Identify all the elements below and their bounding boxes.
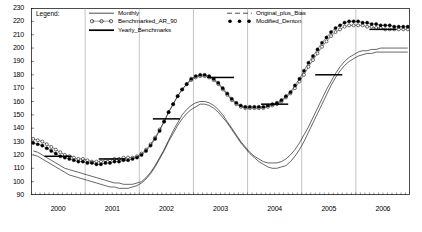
marker-benchmarked-ar90 <box>41 140 44 143</box>
marker-modified-denton <box>203 73 206 76</box>
marker-modified-denton <box>77 160 80 163</box>
chart-figure: 9010011012013014015016017018019020021022… <box>0 0 422 232</box>
marker-modified-denton <box>375 22 378 25</box>
marker-benchmarked-ar90 <box>45 143 48 146</box>
marker-modified-denton <box>298 77 301 80</box>
y-tick-label: 230 <box>2 4 24 11</box>
x-tick-label: 2000 <box>35 205 81 212</box>
marker-modified-denton <box>113 160 116 163</box>
marker-benchmarked-ar90 <box>36 139 39 142</box>
marker-modified-denton <box>248 105 251 108</box>
marker-modified-denton <box>90 161 93 164</box>
marker-benchmarked-ar90 <box>302 73 305 76</box>
legend-label: Monthly <box>118 9 139 17</box>
marker-modified-denton <box>235 101 238 104</box>
marker-modified-denton <box>104 161 107 164</box>
marker-modified-denton <box>397 25 400 28</box>
y-tick-label: 220 <box>2 17 24 24</box>
plot-border <box>32 9 410 195</box>
marker-modified-denton <box>158 129 161 132</box>
marker-modified-denton <box>72 159 75 162</box>
marker-benchmarked-ar90 <box>321 45 324 48</box>
y-tick-label: 110 <box>2 164 24 171</box>
series-original-plus-bias <box>33 52 407 188</box>
marker-modified-denton <box>135 156 138 159</box>
y-tick-label: 130 <box>2 138 24 145</box>
marker-modified-denton <box>307 61 310 64</box>
marker-modified-denton <box>99 163 102 166</box>
legend-swatch <box>88 9 116 17</box>
marker-modified-denton <box>50 149 53 152</box>
marker-modified-denton <box>108 161 111 164</box>
plot-area <box>31 8 410 195</box>
x-tick-label: 2002 <box>143 205 189 212</box>
marker-modified-denton <box>32 141 35 144</box>
y-tick-label: 160 <box>2 98 24 105</box>
legend-label: Yearly_Benchmarks <box>118 26 171 34</box>
legend-swatch <box>88 26 116 34</box>
marker-modified-denton <box>131 157 134 160</box>
marker-benchmarked-ar90 <box>311 59 314 62</box>
marker-modified-denton <box>316 48 319 51</box>
y-tick-label: 100 <box>2 178 24 185</box>
marker-benchmarked-ar90 <box>366 25 369 28</box>
marker-modified-denton <box>185 83 188 86</box>
x-tick-label: 2006 <box>360 205 406 212</box>
marker-modified-denton <box>41 144 44 147</box>
chart-svg <box>31 8 410 195</box>
legend-swatch <box>226 9 254 17</box>
marker-modified-denton <box>144 149 147 152</box>
x-tick-label: 2005 <box>306 205 352 212</box>
y-tick-label: 210 <box>2 31 24 38</box>
marker-modified-denton <box>81 160 84 163</box>
marker-modified-denton <box>36 143 39 146</box>
x-tick-label: 2001 <box>89 205 135 212</box>
series-modified-denton-line <box>33 21 407 164</box>
marker-modified-denton <box>388 24 391 27</box>
marker-modified-denton <box>280 99 283 102</box>
marker-modified-denton <box>262 105 265 108</box>
legend-key-dashed-line <box>226 9 254 17</box>
marker-modified-denton <box>402 25 405 28</box>
marker-modified-denton <box>68 157 71 160</box>
chart-legend: Legend: MonthlyBenchmarked_AR_90Yearly_B… <box>36 9 366 36</box>
y-tick-label: 140 <box>2 124 24 131</box>
marker-modified-denton <box>221 87 224 90</box>
legend-key-line <box>88 9 116 17</box>
legend-swatch <box>88 17 116 25</box>
marker-modified-denton <box>181 88 184 91</box>
marker-modified-denton <box>311 54 314 57</box>
y-tick-label: 170 <box>2 84 24 91</box>
marker-modified-denton <box>230 97 233 100</box>
marker-modified-denton <box>167 111 170 114</box>
legend-key-open-circles <box>88 17 116 25</box>
marker-benchmarked-ar90 <box>325 40 328 43</box>
marker-modified-denton <box>379 24 382 27</box>
marker-modified-denton <box>370 22 373 25</box>
legend-key-thick-line <box>88 26 116 34</box>
series-benchmarked-ar90-line <box>33 25 407 161</box>
marker-benchmarked-ar90 <box>316 52 319 55</box>
marker-modified-denton <box>257 105 260 108</box>
marker-modified-denton <box>302 69 305 72</box>
legend-key-filled-circles <box>226 17 254 25</box>
marker-modified-denton <box>393 25 396 28</box>
marker-modified-denton <box>140 153 143 156</box>
marker-modified-denton <box>172 103 175 106</box>
marker-modified-denton <box>45 147 48 150</box>
marker-modified-denton <box>226 92 229 95</box>
marker-modified-denton <box>253 105 256 108</box>
marker-modified-denton <box>194 75 197 78</box>
marker-modified-denton <box>176 95 179 98</box>
x-tick-label: 2003 <box>198 205 244 212</box>
legend-swatch <box>226 17 254 25</box>
y-tick-label: 190 <box>2 57 24 64</box>
marker-modified-denton <box>384 24 387 27</box>
marker-modified-denton <box>366 21 369 24</box>
legend-label: Benchmarked_AR_90 <box>118 17 177 25</box>
legend-label: Modified_Denton <box>256 17 301 25</box>
marker-benchmarked-ar90 <box>59 151 62 154</box>
legend-label: Original_plus_Bias <box>256 9 306 17</box>
marker-modified-denton <box>190 77 193 80</box>
y-tick-label: 200 <box>2 44 24 51</box>
